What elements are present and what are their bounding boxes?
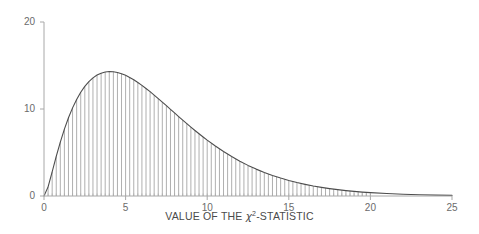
chi-square-distribution-chart: 01020 0510152025 VALUE OF THE χ2-STATIST… <box>0 0 479 234</box>
x-axis-title: VALUE OF THE χ2-STATISTIC <box>0 210 479 222</box>
y-axis-tick-label: 0 <box>0 191 35 201</box>
axes <box>40 22 452 200</box>
x-axis-ticks <box>44 196 452 200</box>
y-axis-ticks <box>40 22 44 196</box>
y-axis-tick-label: 10 <box>0 104 35 114</box>
x-axis-title-suffix: -STATISTIC <box>256 210 314 222</box>
plot-area <box>0 0 479 234</box>
y-axis-tick-label: 20 <box>0 17 35 27</box>
x-axis-title-prefix: VALUE OF THE <box>165 210 245 222</box>
histogram-bars <box>48 72 370 197</box>
